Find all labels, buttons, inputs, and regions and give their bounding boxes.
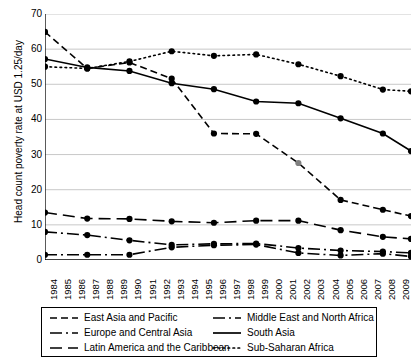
x-tick-label: 2005: [345, 279, 355, 300]
series-line-south-asia: [45, 59, 411, 151]
data-point: [211, 86, 217, 92]
data-point: [380, 130, 386, 136]
x-tick-label: 1991: [148, 279, 158, 300]
legend-item[interactable]: East Asia and Pacific: [42, 310, 212, 325]
y-tick-label: 50: [20, 79, 42, 89]
legend-item[interactable]: Sub-Saharan Africa: [212, 340, 376, 355]
legend-line-swatch-icon: [212, 328, 242, 338]
data-point: [253, 98, 259, 104]
data-point: [408, 213, 411, 219]
chart-legend: East Asia and PacificMiddle East and Nor…: [41, 307, 377, 357]
legend-item[interactable]: Europe and Central Asia: [42, 325, 212, 340]
y-tick-label: 60: [20, 44, 42, 54]
y-tick-label: 70: [20, 9, 42, 19]
y-tick-label: 20: [20, 185, 42, 195]
y-tick-label: 10: [20, 220, 42, 230]
data-point: [84, 232, 90, 238]
data-point: [126, 237, 132, 243]
data-point: [169, 48, 175, 54]
data-point: [295, 250, 301, 256]
data-point: [211, 130, 217, 136]
data-point: [380, 251, 386, 257]
x-tick-label: 2004: [331, 279, 341, 300]
data-point: [338, 227, 344, 233]
data-point: [126, 252, 132, 258]
x-tick-label: 1986: [77, 279, 87, 300]
legend-item-label: Middle East and North Africa: [247, 313, 374, 323]
series-line-sub-saharan-africa: [45, 51, 411, 91]
legend-item-label: Europe and Central Asia: [84, 328, 192, 338]
data-point: [253, 51, 259, 57]
legend-item[interactable]: Latin America and the Caribbean: [42, 340, 212, 355]
data-point: [211, 220, 217, 226]
data-point: [338, 252, 344, 258]
data-point: [338, 197, 344, 203]
x-tick-label: 1987: [91, 279, 101, 300]
x-tick-label: 1984: [49, 279, 59, 300]
data-point: [169, 244, 175, 250]
chart-root: Head count poverty rate at USD 1.25/day …: [0, 0, 415, 364]
legend-item-label: East Asia and Pacific: [84, 313, 177, 323]
x-axis-tick-labels: 1984198519861987198819891990199119921993…: [45, 262, 411, 304]
y-axis-tick-labels: 706050403020100: [16, 0, 42, 280]
legend-line-swatch-icon: [49, 328, 79, 338]
legend-row: Latin America and the CaribbeanSub-Sahar…: [42, 340, 376, 355]
data-point: [253, 131, 259, 137]
x-tick-label: 1996: [218, 279, 228, 300]
legend-row: East Asia and PacificMiddle East and Nor…: [42, 310, 376, 325]
series-line-europe-and-central-asia: [45, 232, 411, 253]
x-tick-label: 1993: [176, 279, 186, 300]
x-tick-label: 2007: [373, 279, 383, 300]
data-point: [126, 58, 132, 64]
legend-row: Europe and Central AsiaSouth Asia: [42, 325, 376, 340]
x-tick-label: 1988: [105, 279, 115, 300]
x-tick-label: 1995: [204, 279, 214, 300]
x-tick-label: 1990: [133, 279, 143, 300]
data-point: [84, 252, 90, 258]
data-point: [408, 236, 411, 242]
x-tick-label: 1985: [63, 279, 73, 300]
data-point: [211, 242, 217, 248]
data-point: [295, 100, 301, 106]
data-point: [126, 68, 132, 74]
data-point: [84, 215, 90, 221]
x-tick-label: 2008: [387, 279, 397, 300]
legend-line-swatch-icon: [212, 343, 242, 353]
chart-svg: [45, 14, 411, 260]
legend-line-swatch-icon: [49, 313, 79, 323]
data-point: [253, 218, 259, 224]
x-tick-label: 1989: [119, 279, 129, 300]
data-point: [380, 234, 386, 240]
x-tick-label: 2009: [401, 279, 411, 300]
data-point: [295, 61, 301, 67]
legend-item[interactable]: Middle East and North Africa: [212, 310, 376, 325]
data-point: [126, 216, 132, 222]
x-tick-label: 2000: [274, 279, 284, 300]
data-point: [211, 53, 217, 59]
legend-item-label: Latin America and the Caribbean: [84, 343, 230, 353]
legend-line-swatch-icon: [212, 313, 242, 323]
x-tick-label: 1994: [190, 279, 200, 300]
legend-item-label: South Asia: [247, 328, 295, 338]
x-tick-label: 2002: [302, 279, 312, 300]
x-tick-label: 2001: [288, 279, 298, 300]
legend-line-swatch-icon: [49, 343, 79, 353]
x-tick-label: 1997: [232, 279, 242, 300]
y-tick-label: 30: [20, 150, 42, 160]
y-tick-label: 40: [20, 114, 42, 124]
x-tick-label: 2006: [359, 279, 369, 300]
data-point: [84, 65, 90, 71]
legend-item[interactable]: South Asia: [212, 325, 376, 340]
x-tick-label: 1999: [260, 279, 270, 300]
data-point: [338, 73, 344, 79]
data-point: [169, 80, 175, 86]
x-tick-label: 1998: [246, 279, 256, 300]
data-point: [408, 88, 411, 94]
data-point: [295, 218, 301, 224]
data-point: [338, 115, 344, 121]
y-tick-label: 0: [20, 255, 42, 265]
x-tick-label: 1992: [162, 279, 172, 300]
legend-item-label: Sub-Saharan Africa: [247, 343, 334, 353]
series-line-latin-america-and-the-caribbean: [45, 213, 411, 239]
plot-area: [45, 14, 411, 260]
